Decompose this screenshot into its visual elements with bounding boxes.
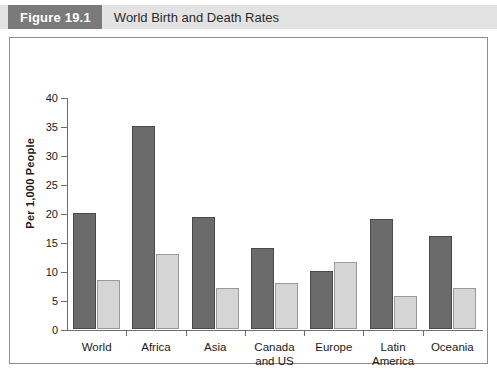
y-tick-mark [61, 272, 67, 273]
y-tick-mark [61, 127, 67, 128]
bar-deaths-canada-and-us [275, 283, 298, 329]
y-tick-label: 10 [46, 266, 58, 278]
x-label-line: World [82, 340, 112, 354]
x-label-asia: Asia [204, 340, 226, 354]
x-label-line: Africa [141, 340, 170, 354]
bar-deaths-asia [216, 288, 239, 329]
x-label-line: Oceania [431, 340, 474, 354]
x-label-europe: Europe [315, 340, 352, 354]
y-tick-mark [61, 301, 67, 302]
x-label-line: Asia [204, 340, 226, 354]
figure-number-tag: Figure 19.1 [8, 5, 102, 29]
figure-title: World Birth and Death Rates [102, 5, 279, 29]
x-axis-line [67, 330, 483, 331]
y-tick-label: 0 [52, 324, 58, 336]
x-label-canada-and-us: Canadaand US [254, 340, 294, 368]
bar-births-africa [132, 126, 155, 329]
x-label-latin-america: LatinAmerica [372, 340, 414, 368]
bar-deaths-africa [156, 254, 179, 329]
figure-header: Figure 19.1 World Birth and Death Rates [0, 5, 497, 29]
bar-births-world [73, 213, 96, 329]
plot-area: 0510152025303540 WorldAfricaAsiaCanadaan… [67, 98, 482, 330]
x-tick-mark [304, 331, 305, 336]
bar-births-latin-america [370, 219, 393, 329]
y-tick-label: 30 [46, 150, 58, 162]
y-tick-mark [61, 330, 67, 331]
x-tick-mark [186, 331, 187, 336]
bar-deaths-europe [334, 262, 357, 329]
y-tick-label: 20 [46, 208, 58, 220]
y-axis-title: Per 1,000 People [24, 138, 38, 229]
y-tick-mark [61, 98, 67, 99]
y-tick-label: 25 [46, 179, 58, 191]
chart-frame: Per 1,000 People 0510152025303540 WorldA… [9, 37, 488, 364]
x-tick-mark [363, 331, 364, 336]
y-tick-mark [61, 156, 67, 157]
y-tick-mark [61, 214, 67, 215]
x-label-world: World [82, 340, 112, 354]
bar-deaths-latin-america [394, 296, 417, 329]
x-label-line: Latin [372, 340, 414, 354]
x-label-africa: Africa [141, 340, 170, 354]
bar-births-europe [310, 271, 333, 329]
x-tick-mark [245, 331, 246, 336]
y-axis-line [67, 98, 68, 331]
bar-deaths-world [97, 280, 120, 329]
x-label-line: and US [254, 354, 294, 368]
y-tick-mark [61, 185, 67, 186]
y-tick-mark [61, 243, 67, 244]
x-label-line: America [372, 354, 414, 368]
x-label-oceania: Oceania [431, 340, 474, 354]
y-tick-label: 15 [46, 237, 58, 249]
x-tick-mark [423, 331, 424, 336]
x-label-line: Canada [254, 340, 294, 354]
x-label-line: Europe [315, 340, 352, 354]
bar-births-canada-and-us [251, 248, 274, 329]
y-tick-label: 40 [46, 92, 58, 104]
bar-births-asia [192, 217, 215, 329]
bar-births-oceania [429, 236, 452, 329]
x-tick-mark [126, 331, 127, 336]
y-tick-label: 5 [52, 295, 58, 307]
bar-deaths-oceania [453, 288, 476, 329]
y-tick-label: 35 [46, 121, 58, 133]
